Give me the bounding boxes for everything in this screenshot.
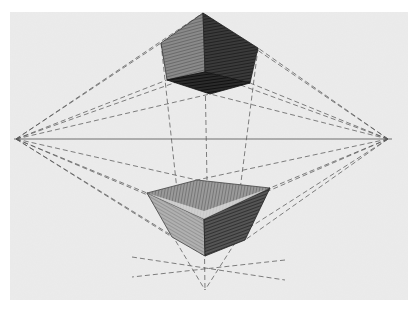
perspective-sketch [0,0,416,311]
drawing-canvas: Three-point perspective pencil sketch of… [0,0,416,311]
